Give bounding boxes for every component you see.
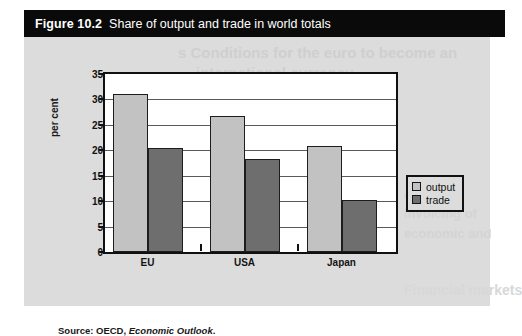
source-suffix: . bbox=[213, 325, 216, 336]
x-axis-labels: EUUSAJapan bbox=[103, 257, 398, 275]
chart-legend: outputtrade bbox=[406, 175, 464, 212]
chart-area: per cent 05101520253035 EUUSAJapan outpu… bbox=[24, 37, 490, 306]
figure-number: Figure 10.2 bbox=[35, 17, 102, 31]
x-axis-separator-tick bbox=[200, 244, 202, 251]
x-axis-separator-tick bbox=[297, 244, 299, 251]
legend-item-trade: trade bbox=[412, 193, 455, 206]
legend-label-trade: trade bbox=[426, 194, 450, 206]
figure-caption: Share of output and trade in world total… bbox=[109, 17, 331, 31]
legend-swatch-output bbox=[412, 182, 421, 191]
x-tick-label-japan: Japan bbox=[327, 257, 356, 268]
bar-eu-output bbox=[113, 94, 148, 252]
y-axis-title: per cent bbox=[49, 123, 60, 137]
bar-japan-output bbox=[307, 146, 342, 252]
bar-usa-output bbox=[210, 116, 245, 252]
figure-title-bar: Figure 10.2 Share of output and trade in… bbox=[24, 10, 505, 37]
bars-layer bbox=[105, 74, 396, 252]
bar-eu-trade bbox=[148, 148, 183, 252]
y-axis-ticks: 05101520253035 bbox=[69, 72, 103, 254]
legend-item-output: output bbox=[412, 180, 455, 193]
x-tick-label-usa: USA bbox=[234, 257, 255, 268]
bar-japan-trade bbox=[342, 200, 377, 252]
source-note: Source: OECD, Economic Outlook. bbox=[58, 325, 215, 336]
legend-swatch-trade bbox=[412, 195, 421, 204]
legend-label-output: output bbox=[426, 181, 455, 193]
source-publication: Economic Outlook bbox=[129, 325, 213, 336]
source-prefix: Source: OECD, bbox=[58, 325, 126, 336]
bar-usa-trade bbox=[245, 159, 280, 252]
x-tick-label-eu: EU bbox=[141, 257, 155, 268]
